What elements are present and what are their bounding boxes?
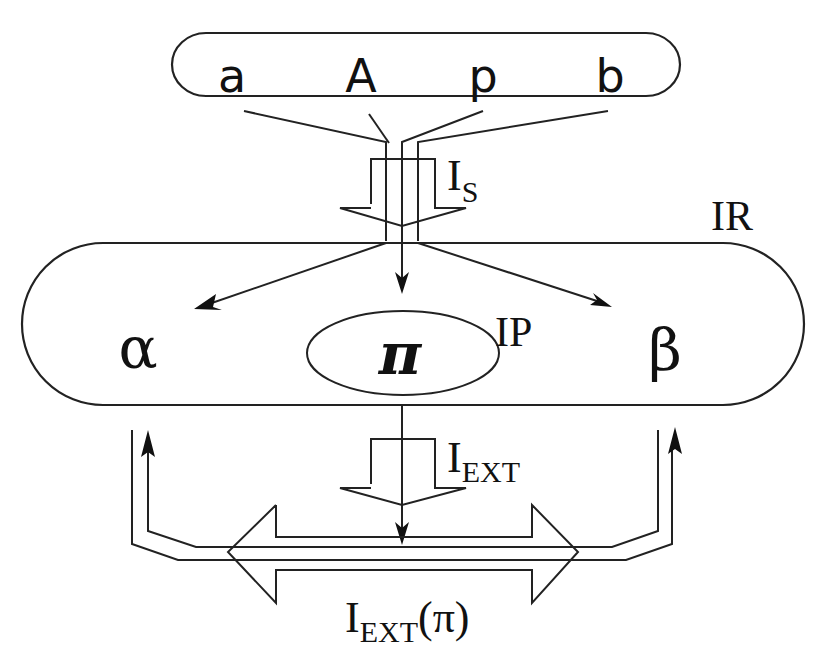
source-box: a A p b: [172, 33, 680, 103]
information-flow-diagram: a A p b IS IR α π IP β IEXT: [0, 0, 827, 662]
arrow-up-to-beta-icon: [668, 427, 682, 454]
feedback-lines: [132, 427, 682, 560]
alpha-symbol: α: [118, 314, 157, 382]
symbol-p: p: [468, 49, 497, 103]
iext-label: IEXT: [447, 433, 520, 488]
pi-symbol: π: [378, 320, 423, 388]
is-label: IS: [447, 151, 478, 208]
distribution-arrows: [194, 243, 612, 310]
ip-label: IP: [495, 309, 532, 355]
ir-label: IR: [711, 193, 753, 239]
beta-symbol: β: [648, 316, 682, 384]
arrow-to-alpha-icon: [194, 294, 222, 310]
convergence-lines: [244, 111, 608, 258]
symbol-a: a: [218, 49, 246, 103]
symbol-A: A: [345, 49, 377, 103]
iext-pi-label: IEXT(π): [345, 593, 470, 648]
symbol-b: b: [595, 49, 624, 103]
